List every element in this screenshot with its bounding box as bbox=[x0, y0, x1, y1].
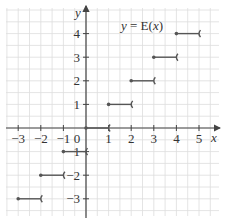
x-tick-label: 1 bbox=[105, 131, 112, 146]
closed-endpoint bbox=[152, 55, 156, 59]
x-axis-label: x bbox=[210, 130, 217, 145]
step-function-chart: −3−2−10123454321−1−2−3 x y y = E(x) bbox=[0, 0, 225, 221]
closed-endpoint bbox=[107, 103, 111, 107]
closed-endpoint bbox=[175, 32, 179, 36]
x-tick-label: 4 bbox=[173, 131, 180, 146]
y-tick-label: −2 bbox=[66, 168, 80, 183]
closed-endpoint bbox=[84, 126, 88, 130]
y-tick-label: −3 bbox=[66, 191, 80, 206]
closed-endpoint bbox=[39, 173, 43, 177]
x-tick-label: −3 bbox=[11, 131, 25, 146]
x-tick-label: 5 bbox=[196, 131, 203, 146]
closed-endpoint bbox=[16, 197, 20, 201]
chart-title: y = E(x) bbox=[119, 18, 163, 33]
x-tick-label: 3 bbox=[151, 131, 158, 146]
grid-lines bbox=[6, 8, 219, 216]
x-tick-label: 2 bbox=[128, 131, 135, 146]
title-close: ) bbox=[159, 18, 163, 33]
x-tick-label: −2 bbox=[34, 131, 48, 146]
y-tick-label: 1 bbox=[74, 97, 81, 112]
y-tick-label: 4 bbox=[74, 26, 81, 41]
y-tick-label: 2 bbox=[74, 73, 81, 88]
title-eq: = E( bbox=[127, 18, 153, 33]
closed-endpoint bbox=[129, 79, 133, 83]
y-tick-label: 3 bbox=[74, 50, 81, 65]
y-axis-label: y bbox=[73, 5, 81, 20]
closed-endpoint bbox=[62, 150, 66, 154]
